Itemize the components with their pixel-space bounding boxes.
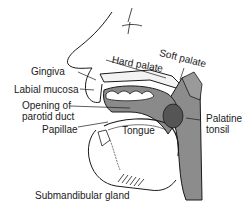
label-papillae: Papillae bbox=[42, 124, 78, 135]
lower-teeth bbox=[98, 130, 110, 146]
palatine-tonsil-shape bbox=[163, 104, 183, 128]
mandible-sketch bbox=[110, 140, 120, 170]
label-opening-parotid-duct-line2: parotid duct bbox=[22, 111, 74, 122]
label-submandibular-gland: Submandibular gland bbox=[35, 190, 130, 201]
label-palatine-tonsil-line1: Palatine bbox=[206, 113, 242, 124]
face-profile bbox=[67, 12, 112, 68]
submandibular-gland-shape bbox=[118, 174, 144, 186]
hard-palate-bone bbox=[100, 70, 182, 88]
label-tongue: Tongue bbox=[122, 125, 155, 136]
nasal-sketch bbox=[122, 8, 142, 34]
oral-cavity-diagram: Hard palate Soft palate Gingiva Labial m… bbox=[0, 0, 249, 207]
upper-lip bbox=[85, 68, 102, 103]
label-gingiva: Gingiva bbox=[31, 66, 65, 77]
label-opening-parotid-duct-line1: Opening of bbox=[22, 100, 71, 111]
label-palatine-tonsil-line2: tonsil bbox=[206, 124, 229, 135]
label-labial-mucosa: Labial mucosa bbox=[14, 84, 78, 95]
